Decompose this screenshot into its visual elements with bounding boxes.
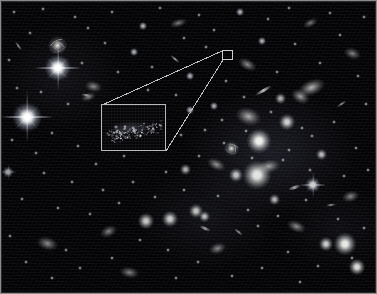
source-region-marker[interactable]: [222, 50, 233, 60]
deep-field-figure: [0, 0, 377, 294]
leader-line-1: [102, 51, 222, 105]
inset-noise-texture: [102, 105, 165, 150]
magnified-inset-panel[interactable]: [101, 104, 166, 151]
leader-line-2: [166, 60, 223, 151]
callout-leader-lines: [0, 0, 377, 294]
